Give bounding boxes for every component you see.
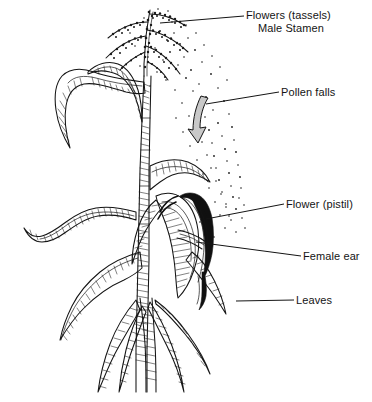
diagram-canvas: Flowers (tassels) Male Stamen Pollen fal… [0, 0, 372, 402]
label-leaves: Leaves [296, 294, 332, 306]
label-flowers-tassels-line1: Flowers (tassels) [246, 9, 331, 21]
label-flower-pistil: Flower (pistil) [286, 198, 353, 210]
label-pollen-falls: Pollen falls [281, 86, 336, 98]
label-flowers-tassels-line2: Male Stamen [258, 22, 324, 34]
corn-plant-diagram: Flowers (tassels) Male Stamen Pollen fal… [0, 0, 372, 402]
label-female-ear: Female ear [303, 250, 360, 262]
